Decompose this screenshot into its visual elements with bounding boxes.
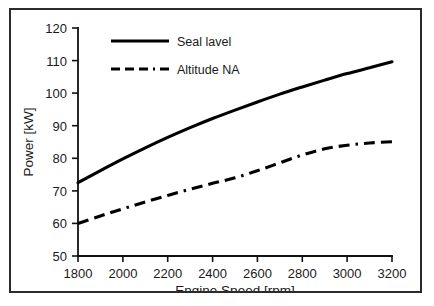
chart-frame: 50 60 70 80 90 100 110 120 1800 2000 220… <box>9 8 422 293</box>
y-ticklabel-90: 90 <box>53 119 67 134</box>
y-ticklabel-100: 100 <box>45 86 67 101</box>
legend-label-seal-lavel: Seal lavel <box>177 35 231 49</box>
x-ticklabel-2800: 2800 <box>288 266 317 281</box>
y-ticklabel-50: 50 <box>53 249 67 264</box>
x-ticklabel-2400: 2400 <box>198 266 227 281</box>
chart-plot-root: 50 60 70 80 90 100 110 120 1800 2000 220… <box>11 10 420 291</box>
y-ticklabel-120: 120 <box>45 21 67 36</box>
legend-label-altitude-na: Altitude NA <box>177 63 240 77</box>
y-ticklabel-110: 110 <box>46 54 67 69</box>
y-axis-title: Power [kW] <box>21 107 36 176</box>
y-ticklabel-70: 70 <box>53 184 67 199</box>
x-axis-title: Engine Speed [rpm] <box>175 283 294 291</box>
x-ticklabel-2600: 2600 <box>243 266 272 281</box>
x-ticklabel-1800: 1800 <box>64 266 93 281</box>
x-ticklabel-3000: 3000 <box>333 266 362 281</box>
power-vs-engine-speed-chart: 50 60 70 80 90 100 110 120 1800 2000 220… <box>11 10 420 291</box>
x-ticklabel-2000: 2000 <box>108 266 137 281</box>
plot-background <box>11 10 420 291</box>
y-ticklabel-60: 60 <box>53 216 67 231</box>
x-ticklabel-2200: 2200 <box>153 266 182 281</box>
y-ticklabel-80: 80 <box>53 151 67 166</box>
x-ticklabel-3200: 3200 <box>378 266 407 281</box>
